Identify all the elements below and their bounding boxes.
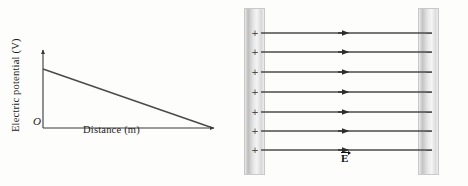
minus-charge-symbol: − <box>423 125 435 137</box>
minus-charge-symbol: − <box>423 86 435 98</box>
potential-distance-graph: Electric potential (V) Distance (m) O <box>0 0 234 186</box>
parallel-plate-capacitor-diagram: + + + + + + + − − − − − − − E <box>234 0 468 186</box>
plus-charge-symbol: + <box>249 125 261 137</box>
minus-charge-symbol: − <box>423 66 435 78</box>
plus-charge-symbol: + <box>249 144 261 156</box>
origin-label: O <box>33 115 41 127</box>
plus-charge-symbol: + <box>249 106 261 118</box>
plus-charge-symbol: + <box>249 46 261 58</box>
plus-charge-symbol: + <box>249 66 261 78</box>
graph-canvas <box>0 0 234 186</box>
vector-arrow-icon <box>341 152 349 153</box>
minus-charge-symbol: − <box>423 46 435 58</box>
minus-charge-symbol: − <box>423 27 435 39</box>
plus-charge-symbol: + <box>249 86 261 98</box>
plus-charge-symbol: + <box>249 27 261 39</box>
minus-charge-symbol: − <box>423 106 435 118</box>
x-axis-label: Distance (m) <box>83 124 140 135</box>
minus-charge-symbol: − <box>423 144 435 156</box>
physics-figure: Electric potential (V) Distance (m) O <box>0 0 468 186</box>
electric-field-vector-label: E <box>341 152 349 164</box>
